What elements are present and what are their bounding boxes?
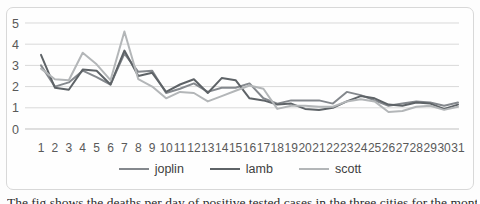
figure-caption: The fig shows the deaths per day of posi… (7, 195, 477, 204)
x-tick-label: 15 (229, 141, 243, 155)
x-tick-label: 13 (201, 141, 215, 155)
plot-area: 0123451234567891011121314151617181920212… (7, 8, 473, 158)
x-tick-label: 7 (121, 141, 128, 155)
x-tick-label: 9 (149, 141, 156, 155)
x-tick-label: 22 (326, 141, 340, 155)
x-tick-label: 3 (65, 141, 72, 155)
x-tick-label: 4 (79, 141, 86, 155)
legend-item-scott: scott (299, 162, 361, 176)
figure-container: 0123451234567891011121314151617181920212… (0, 0, 480, 204)
x-tick-label: 30 (437, 141, 451, 155)
legend-label-scott: scott (335, 162, 361, 176)
line-chart: 0123451234567891011121314151617181920212… (6, 7, 474, 190)
x-tick-label: 19 (285, 141, 299, 155)
x-tick-label: 21 (312, 141, 326, 155)
x-tick-label: 14 (215, 141, 229, 155)
x-tick-label: 6 (107, 141, 114, 155)
x-tick-label: 16 (243, 141, 257, 155)
legend-label-joplin: joplin (155, 162, 184, 176)
y-tick-label: 1 (12, 101, 19, 115)
x-tick-label: 27 (396, 141, 410, 155)
series-line-scott (41, 32, 458, 113)
legend-line-swatch-scott (299, 168, 329, 170)
x-tick-label: 8 (135, 141, 142, 155)
x-tick-label: 18 (271, 141, 285, 155)
x-tick-label: 11 (174, 141, 187, 155)
x-tick-label: 26 (382, 141, 396, 155)
x-tick-label: 24 (354, 141, 368, 155)
x-tick-label: 31 (451, 141, 465, 155)
y-tick-label: 2 (12, 80, 19, 94)
y-tick-label: 0 (12, 123, 19, 137)
legend-label-lamb: lamb (246, 162, 273, 176)
chart-legend: joplinlambscott (7, 162, 473, 176)
x-tick-label: 2 (52, 141, 59, 155)
y-tick-label: 4 (12, 38, 19, 52)
x-tick-label: 29 (424, 141, 438, 155)
legend-item-joplin: joplin (119, 162, 184, 176)
y-tick-label: 5 (12, 17, 19, 31)
y-tick-label: 3 (12, 59, 19, 73)
legend-item-lamb: lamb (210, 162, 273, 176)
x-tick-label: 1 (38, 141, 45, 155)
x-tick-label: 12 (187, 141, 201, 155)
x-tick-label: 5 (93, 141, 100, 155)
legend-line-swatch-joplin (119, 168, 149, 170)
x-tick-label: 10 (159, 141, 173, 155)
x-tick-label: 20 (298, 141, 312, 155)
legend-line-swatch-lamb (210, 168, 240, 170)
x-tick-label: 23 (340, 141, 354, 155)
x-tick-label: 25 (368, 141, 382, 155)
x-tick-label: 28 (410, 141, 424, 155)
x-tick-label: 17 (257, 141, 271, 155)
